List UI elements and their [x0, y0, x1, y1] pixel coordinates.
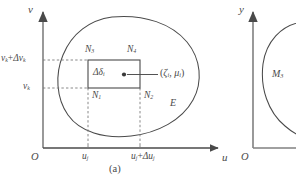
figure-container: v u O vk+Δvk vk uj uj+Δuj N3 N4 N1 N2 Δδ…: [0, 0, 296, 179]
corner-node-n4-subscript: 4: [133, 48, 136, 54]
corner-node-n1-subscript: 1: [98, 94, 101, 100]
panel-a-origin-label: O: [31, 152, 39, 163]
corner-node-n2-subscript: 2: [150, 94, 153, 100]
x-tick-label-left: uj: [82, 152, 88, 162]
y-tick-lower-base-sub: k: [27, 85, 30, 91]
y-tick-upper-delta-sub: k: [23, 57, 26, 63]
panel-b-region-label: M3: [272, 69, 283, 80]
corner-node-n3-subscript: 3: [91, 48, 94, 54]
region-label-e: E: [170, 98, 176, 108]
panel-a-x-axis-label: u: [222, 152, 228, 163]
x-tick-right-delta: Δu: [143, 151, 153, 161]
panel-b-y-axis-label: y: [239, 4, 244, 15]
cell-area-subscript: i: [103, 71, 105, 77]
x-tick-label-right: uj+Δuj: [131, 152, 155, 162]
panel-b-region-boundary: [262, 22, 296, 139]
sample-point-label: (ζi, μi): [160, 68, 184, 79]
corner-node-n1: N1: [92, 91, 101, 101]
sample-point-comma: ,: [169, 67, 172, 78]
corner-node-n2: N2: [144, 91, 153, 101]
panel-b-region-subscript: 3: [280, 72, 283, 79]
cell-area-symbol: Δδ: [93, 67, 103, 77]
x-tick-left-base-sub: j: [87, 155, 89, 161]
y-tick-upper-delta: Δv: [13, 53, 23, 63]
corner-node-n4: N4: [127, 45, 136, 55]
corner-node-n3: N3: [85, 45, 94, 55]
sample-point-close-paren: ): [181, 67, 184, 78]
figure-caption: (a): [109, 164, 121, 175]
y-tick-label-lower: vk: [23, 82, 30, 92]
sample-point-dot: [122, 72, 126, 76]
cell-area-label: Δδi: [93, 68, 105, 78]
panel-b-origin-label: O: [241, 152, 249, 163]
panel-a-y-axis-label: v: [28, 4, 33, 15]
x-tick-right-delta-sub: j: [153, 155, 155, 161]
y-tick-label-upper: vk+Δvk: [1, 54, 26, 64]
